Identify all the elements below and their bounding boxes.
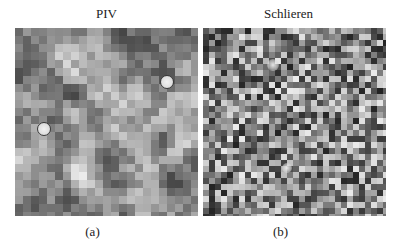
particle-marker-circle bbox=[37, 122, 51, 136]
panel-b-caption: (b) bbox=[189, 224, 372, 240]
panel-a-title: PIV bbox=[15, 6, 198, 22]
bright-spot bbox=[282, 163, 292, 173]
particle-marker-circle bbox=[160, 75, 174, 89]
panel-b: Schlieren (b) bbox=[203, 0, 386, 251]
schlieren-image bbox=[203, 28, 386, 216]
panel-b-title: Schlieren bbox=[197, 6, 380, 22]
panel-a: PIV (a) bbox=[15, 0, 198, 251]
panel-a-caption: (a) bbox=[1, 224, 184, 240]
piv-image bbox=[15, 28, 198, 216]
bright-spot bbox=[267, 59, 279, 71]
schlieren-mosaic-canvas bbox=[203, 28, 386, 216]
